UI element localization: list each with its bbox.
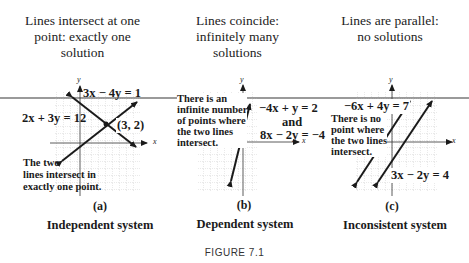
intersection-point: [104, 122, 109, 127]
equation-b1: −4x + y = 2: [259, 101, 318, 116]
label-b: (b): [214, 198, 274, 213]
y-axis-label-a: y: [77, 75, 81, 84]
x-axis-label-c: x: [452, 136, 456, 145]
equation-a1: 3x − 4y = 1: [83, 86, 141, 101]
note-b: There is an infinite number of points wh…: [177, 93, 247, 148]
figure-caption: FIGURE 7.1: [0, 247, 469, 258]
label-a: (a): [70, 199, 130, 214]
equation-a2: 2x + 3y = 12: [22, 111, 86, 126]
y-axis-label-c: y: [389, 75, 393, 84]
equation-c1: −6x + 4y = 7: [343, 99, 410, 114]
y-axis-label-b: y: [240, 75, 244, 84]
note-c: There is no point where the two lines in…: [331, 113, 387, 157]
equation-c2: 3x − 2y = 4: [390, 168, 450, 183]
label-c: (c): [362, 199, 422, 214]
system-name-a: Independent system: [35, 218, 165, 233]
note-a: The two lines intersect in exactly one p…: [23, 157, 101, 193]
intersection-label: (3, 2): [116, 118, 145, 133]
system-name-c: Inconsistent system: [330, 218, 460, 233]
equation-b2: 8x − 2y = −4: [260, 128, 325, 143]
system-name-b: Dependent system: [180, 217, 310, 232]
x-axis-label-a: x: [153, 137, 157, 146]
